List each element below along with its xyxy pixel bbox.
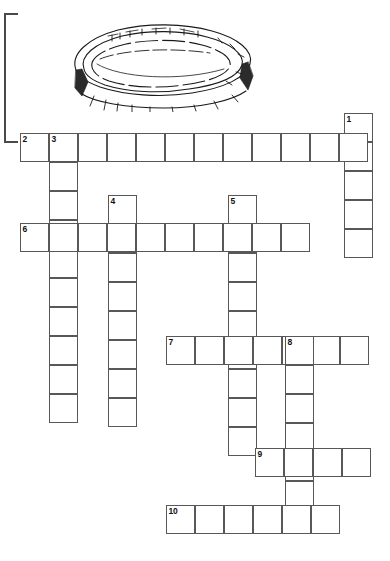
crossword-cell[interactable] xyxy=(165,133,194,162)
crossword-cell[interactable] xyxy=(224,336,253,365)
crossword-cell[interactable] xyxy=(228,369,257,398)
crossword-cell[interactable] xyxy=(285,394,314,423)
crossword-cell[interactable] xyxy=(49,223,78,252)
worksheet-page: 12345678910 xyxy=(0,0,390,561)
crossword-cell[interactable] xyxy=(108,282,137,311)
crossword-cell[interactable] xyxy=(223,223,252,252)
crossword-cell[interactable] xyxy=(194,223,223,252)
crossword-cell[interactable] xyxy=(165,223,194,252)
clue-number-6: 6 xyxy=(23,224,28,234)
clue-number-7: 7 xyxy=(169,337,174,347)
crossword-cell[interactable] xyxy=(252,223,281,252)
crossword-cell[interactable] xyxy=(108,311,137,340)
crossword-cell[interactable] xyxy=(284,448,313,477)
crossword-cell[interactable]: 8 xyxy=(285,336,314,365)
crossword-cell[interactable] xyxy=(49,249,78,278)
crossword-cell[interactable] xyxy=(282,505,311,534)
crossword-cell[interactable] xyxy=(49,365,78,394)
crossword-cell[interactable] xyxy=(224,505,253,534)
crossword-cell[interactable]: 2 xyxy=(20,133,49,162)
crossword-cell[interactable]: 5 xyxy=(228,195,257,224)
crossword-cell[interactable]: 9 xyxy=(255,448,284,477)
crossword-cell[interactable] xyxy=(344,229,373,258)
crossword-cell[interactable] xyxy=(339,133,368,162)
crossword-cell[interactable] xyxy=(136,223,165,252)
crossword-cell[interactable] xyxy=(344,200,373,229)
crossword-cell[interactable] xyxy=(108,253,137,282)
crossword-cell[interactable] xyxy=(228,398,257,427)
crossword-cell[interactable] xyxy=(228,253,257,282)
crossword-cell[interactable] xyxy=(195,336,224,365)
clue-number-3: 3 xyxy=(52,134,57,144)
crossword-cell[interactable] xyxy=(281,223,310,252)
clue-number-8: 8 xyxy=(288,337,293,347)
crossword-cell[interactable] xyxy=(136,133,165,162)
crossword-cell[interactable] xyxy=(49,278,78,307)
clue-number-4: 4 xyxy=(111,196,116,206)
clue-number-9: 9 xyxy=(258,449,263,459)
crossword-cell[interactable] xyxy=(107,223,136,252)
crossword-cell[interactable] xyxy=(311,505,340,534)
crossword-cell[interactable]: 4 xyxy=(108,195,137,224)
crossword-cell[interactable] xyxy=(107,133,136,162)
crossword-cell[interactable] xyxy=(108,340,137,369)
crossword-cell[interactable]: 6 xyxy=(20,223,49,252)
crossword-cell[interactable] xyxy=(311,336,340,365)
crossword-cell[interactable] xyxy=(253,336,282,365)
crossword-cell[interactable] xyxy=(252,133,281,162)
crossword-cell[interactable] xyxy=(49,191,78,220)
clue-number-10: 10 xyxy=(169,506,178,516)
crossword-cell[interactable] xyxy=(344,171,373,200)
crossword-cell[interactable] xyxy=(340,336,369,365)
crossword-cell[interactable] xyxy=(223,133,252,162)
crossword-cell[interactable] xyxy=(49,394,78,423)
crossword-cell[interactable]: 10 xyxy=(166,505,195,534)
clue-number-2: 2 xyxy=(23,134,28,144)
crossword-cell[interactable] xyxy=(108,398,137,427)
crossword-cell[interactable] xyxy=(78,133,107,162)
crossword-cell[interactable] xyxy=(195,505,224,534)
crossword-cell[interactable]: 3 xyxy=(49,133,78,162)
crossword-cell[interactable]: 7 xyxy=(166,336,195,365)
clue-number-1: 1 xyxy=(347,114,352,124)
crossword-cell[interactable] xyxy=(78,223,107,252)
crossword-cell[interactable] xyxy=(253,505,282,534)
crossword-cell[interactable] xyxy=(108,369,137,398)
crossword-cell[interactable] xyxy=(342,448,371,477)
crossword-cell[interactable] xyxy=(228,282,257,311)
crossword-cell[interactable] xyxy=(228,427,257,456)
crossword-cell[interactable] xyxy=(310,133,339,162)
crossword-cell[interactable] xyxy=(49,162,78,191)
crossword-cell[interactable] xyxy=(285,365,314,394)
crossword-cell[interactable] xyxy=(49,307,78,336)
crossword-cell[interactable] xyxy=(313,448,342,477)
crossword-grid[interactable]: 12345678910 xyxy=(0,0,390,561)
crossword-cell[interactable] xyxy=(281,133,310,162)
crossword-cell[interactable] xyxy=(49,336,78,365)
crossword-cell[interactable] xyxy=(194,133,223,162)
clue-number-5: 5 xyxy=(231,196,236,206)
